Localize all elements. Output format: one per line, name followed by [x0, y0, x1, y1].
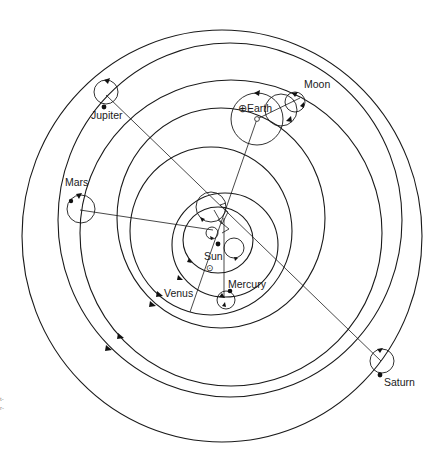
- arrow-icon: [286, 116, 292, 122]
- edge-mark-2: r-: [0, 405, 4, 411]
- earth-label: ⊕Earth: [238, 102, 272, 114]
- earth-epicycle: [231, 90, 305, 145]
- radial-lines: [80, 95, 381, 361]
- arrow-icon: [300, 102, 304, 108]
- planetary-orbit-diagram: Jupiter Mars ⊕Earth Moon Sun ⊙: [0, 0, 441, 464]
- mercury-label: Mercury: [228, 278, 267, 290]
- diagram-canvas: Jupiter Mars ⊕Earth Moon Sun ⊙: [0, 0, 441, 464]
- saturn-label: Saturn: [384, 376, 415, 388]
- arrow-icon: [222, 302, 226, 307]
- mars-line: [80, 210, 213, 230]
- orbit-rings: [22, 30, 422, 442]
- saturn-dot: [378, 373, 383, 378]
- venus-label: Venus: [164, 287, 193, 299]
- sun-center-dot: [216, 242, 221, 247]
- orbit-ring-5: [80, 80, 382, 386]
- arrow-icon: [292, 92, 298, 97]
- earth-point: [255, 117, 260, 122]
- arrow-icon: [156, 291, 163, 297]
- earth-symbol: ⊕: [238, 102, 247, 114]
- mars-dot: [69, 199, 73, 203]
- arrow-icon: [254, 90, 260, 96]
- mars-label: Mars: [65, 176, 88, 188]
- arrow-icon: [200, 217, 205, 222]
- jupiter-epicycle: [94, 78, 118, 109]
- orbit-ring-3: [130, 147, 292, 315]
- jupiter-label: Jupiter: [91, 109, 123, 121]
- arrow-icon: [377, 348, 383, 353]
- moon-label: Moon: [304, 78, 330, 90]
- arrow-icon: [117, 333, 124, 339]
- orbit-ring-6: [58, 43, 402, 397]
- arrow-icon: [149, 301, 156, 307]
- arrow-icon: [104, 78, 110, 84]
- orbit-ring-7: [22, 30, 422, 442]
- saturn-epicycle: [370, 348, 394, 377]
- edge-mark-1: t-: [0, 396, 4, 402]
- jupiter-saturn-line: [106, 95, 381, 361]
- mercury-epicycle: [217, 289, 235, 309]
- sun-symbol: ⊙: [206, 263, 214, 273]
- earth-name: Earth: [247, 102, 272, 114]
- sun-label: Sun: [204, 250, 223, 262]
